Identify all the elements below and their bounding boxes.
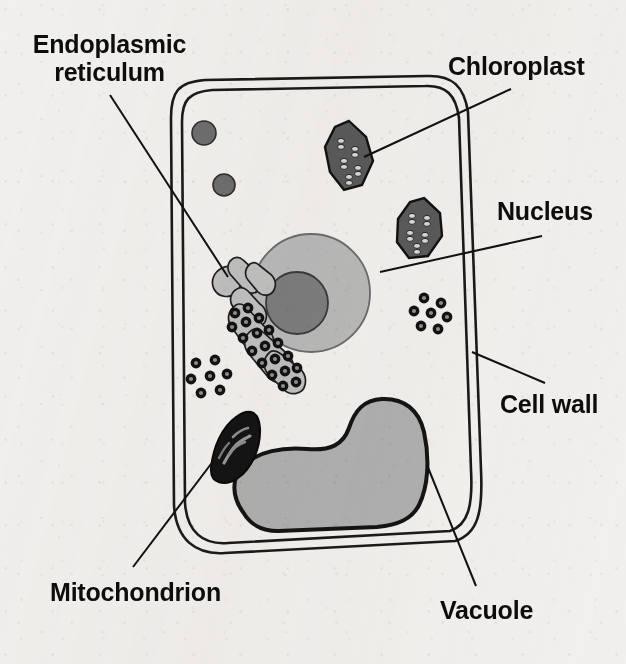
- leader-line-cell-wall: [472, 352, 545, 383]
- label-cell-wall: Cell wall: [500, 390, 598, 418]
- ribosome-cluster-right: [409, 293, 453, 335]
- label-mitochondrion: Mitochondrion: [50, 578, 221, 606]
- label-nucleus: Nucleus: [497, 197, 593, 225]
- ribosome-cluster-left: [186, 355, 233, 399]
- vacuole-body: [234, 399, 427, 531]
- leader-line-vacuole: [427, 465, 476, 586]
- vacuole: [234, 399, 427, 531]
- vesicle-upper: [192, 121, 216, 145]
- figure-page: Endoplasmic reticulumChloroplastNucleusC…: [0, 0, 626, 664]
- leader-line-chloroplast: [364, 89, 511, 157]
- chloroplast-lower-body: [397, 198, 442, 258]
- plant-cell-diagram: [0, 0, 626, 664]
- label-endoplasmic-reticulum: Endoplasmic reticulum: [22, 30, 197, 86]
- chloroplast-lower: [397, 198, 442, 258]
- label-chloroplast: Chloroplast: [448, 52, 585, 80]
- label-vacuole: Vacuole: [440, 596, 533, 624]
- vesicle-lower: [213, 174, 235, 196]
